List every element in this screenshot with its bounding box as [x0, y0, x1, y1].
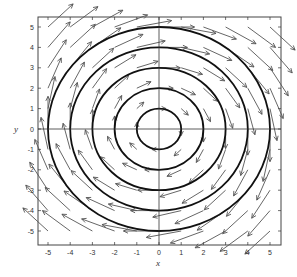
vector-arrow [223, 211, 248, 234]
vector-arrow [137, 41, 165, 48]
vector-arrow [270, 68, 288, 96]
y-tick-label: -4 [28, 207, 34, 214]
vector-arrow [146, 231, 181, 237]
vector-arrow [203, 109, 210, 122]
x-tick-label: 1 [179, 249, 183, 256]
x-axis-label: x [155, 258, 160, 268]
vector-arrow [42, 211, 70, 231]
x-tick-label: 4 [246, 249, 250, 256]
y-tick-label: 0 [30, 126, 34, 133]
vector-arrow [248, 109, 255, 135]
x-tick-label: 3 [224, 249, 228, 256]
x-tick-label: 0 [157, 249, 161, 256]
y-tick-label: 4 [30, 44, 34, 51]
vector-arrow [248, 88, 262, 114]
y-tick-label: 2 [30, 85, 34, 92]
vector-arrow [270, 109, 277, 141]
x-tick-label: 5 [268, 249, 272, 256]
x-tick-label: -4 [67, 249, 73, 256]
x-tick-label: -1 [134, 249, 140, 256]
vector-arrow [196, 149, 203, 162]
vector-arrow [153, 211, 181, 218]
vector-arrow [211, 170, 225, 190]
y-axis-label: y [13, 124, 18, 134]
y-tick-label: -2 [28, 166, 34, 173]
vector-arrow [35, 139, 48, 169]
vector-arrow [248, 211, 270, 236]
vector-arrow [175, 211, 203, 224]
x-tick-label: -3 [89, 249, 95, 256]
vector-arrow [115, 96, 122, 109]
x-tick-label: -5 [45, 249, 51, 256]
vector-arrow [70, 24, 95, 47]
vector-arrow [48, 22, 70, 47]
vector-arrow [93, 177, 114, 190]
y-tick-label: 5 [30, 24, 34, 31]
vector-arrow [107, 136, 114, 149]
vector-arrow [56, 144, 70, 170]
y-tick-label: -3 [28, 187, 34, 194]
vector-field-plot: -5-4-3-2-1012345-5-4-3-2-1012345 x y [0, 0, 297, 277]
vector-arrow [203, 68, 224, 81]
vector-arrow [92, 10, 122, 27]
x-tick-label: 2 [201, 249, 205, 256]
y-tick-label: 3 [30, 64, 34, 71]
vector-arrow [248, 27, 276, 47]
axis-ticks: -5-4-3-2-1012345-5-4-3-2-1012345 [28, 17, 281, 256]
vector-arrow [115, 34, 143, 47]
vector-arrow [63, 123, 70, 149]
vector-arrow [92, 69, 106, 89]
vector-arrow [41, 117, 48, 149]
y-tick-label: 1 [30, 105, 34, 112]
vector-arrow [170, 231, 203, 243]
y-tick-label: -5 [28, 228, 34, 235]
y-tick-label: -1 [28, 146, 34, 153]
x-tick-label: -2 [111, 249, 117, 256]
vector-arrow [137, 21, 172, 27]
